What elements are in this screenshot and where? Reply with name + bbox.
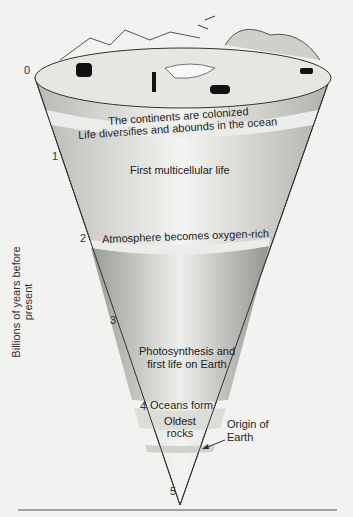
origin-label-line1: Origin of	[227, 418, 269, 430]
tick-5: 5	[170, 485, 176, 497]
event-first-multicellular: First multicellular life	[130, 164, 230, 176]
tick-3: 3	[110, 314, 116, 326]
tick-4: 4	[140, 400, 146, 412]
tick-2: 2	[80, 232, 86, 244]
event-oceans-form: Oceans form	[150, 399, 213, 411]
event-photosynthesis: Photosynthesis and first life on Earth	[137, 345, 237, 371]
origin-label-line2: Earth	[227, 431, 253, 443]
cone-diagram	[0, 0, 353, 517]
tick-0: 0	[24, 64, 30, 76]
event-oldest-rocks: Oldest rocks	[160, 415, 200, 439]
tick-1: 1	[52, 150, 58, 162]
axis-label: Billions of years before present	[10, 242, 34, 362]
